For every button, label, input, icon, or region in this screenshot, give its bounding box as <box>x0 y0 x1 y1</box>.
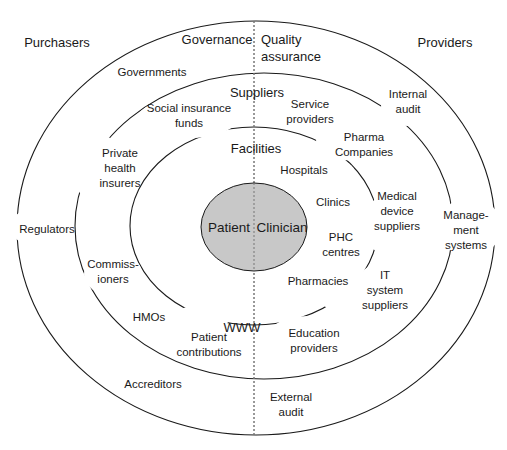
it-system-suppliers-label: IT system suppliers <box>362 268 408 313</box>
gap-www <box>170 306 230 330</box>
medical-device-suppliers-label: Medical device suppliers <box>374 189 420 234</box>
quality-assurance-label: Quality assurance <box>261 31 321 65</box>
phc-centres-label: PHC centres <box>322 230 360 260</box>
providers-label: Providers <box>418 34 473 51</box>
regulators-label: Regulators <box>19 222 75 237</box>
facilities-label: Facilities <box>231 140 282 157</box>
commissioners-label: Commiss- ioners <box>87 257 139 287</box>
hmos-label: HMOs <box>133 310 166 325</box>
suppliers-label: Suppliers <box>230 84 284 101</box>
private-health-insurers-label: Private health insurers <box>100 146 141 191</box>
accreditors-label: Accreditors <box>124 377 182 392</box>
hospitals-label: Hospitals <box>280 163 327 178</box>
governance-label: Governance <box>182 31 253 48</box>
service-providers-label: Service providers <box>286 97 333 127</box>
clinics-label: Clinics <box>316 195 350 210</box>
internal-audit-label: Internal audit <box>389 87 427 117</box>
pharmacies-label: Pharmacies <box>288 274 349 289</box>
patient-label: Patient <box>208 220 250 235</box>
external-audit-label: External audit <box>270 390 312 420</box>
management-systems-label: Manage- ment systems <box>443 208 488 253</box>
education-providers-label: Education providers <box>288 326 339 356</box>
social-insurance-funds-label: Social insurance funds <box>147 101 231 131</box>
governments-label: Governments <box>117 65 186 80</box>
pharma-companies-label: Pharma Companies <box>335 130 393 160</box>
purchasers-label: Purchasers <box>24 34 90 51</box>
clinician-label: Clinician <box>256 220 307 235</box>
www-label: WWW <box>224 319 261 336</box>
